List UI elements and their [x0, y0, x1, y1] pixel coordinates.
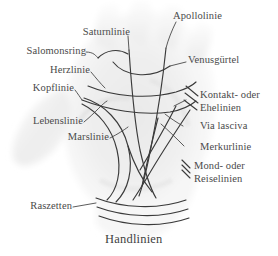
figure-caption: Handlinien [105, 232, 163, 247]
label-mond-reiselinien-line2: Reiselinien [194, 173, 245, 186]
label-kopflinie: Kopflinie [0, 82, 74, 94]
label-salomonsring: Salomonsring [0, 45, 86, 57]
palmistry-figure: Apollolinie Saturnlinie Venusgürtel Salo… [0, 0, 278, 256]
label-kontakt-ehelinien-line2: Ehelinien [200, 102, 260, 115]
label-marslinie: Marslinie [0, 131, 109, 143]
leader-raszetten [73, 203, 96, 207]
label-mond-reiselinien: Mond- oder Reiselinien [194, 160, 245, 185]
label-kontakt-ehelinien: Kontakt- oder Ehelinien [200, 89, 260, 114]
label-merkurlinie: Merkurlinie [200, 141, 251, 153]
label-apollolinie: Apollolinie [173, 10, 222, 22]
label-herzlinie: Herzlinie [0, 64, 90, 76]
label-mond-reiselinien-line1: Mond- oder [194, 160, 245, 173]
label-via-lasciva: Via lasciva [200, 120, 247, 132]
label-kontakt-ehelinien-line1: Kontakt- oder [200, 89, 260, 102]
label-raszetten: Raszetten [0, 200, 72, 212]
label-saturnlinie: Saturnlinie [60, 26, 130, 38]
label-lebenslinie: Lebenslinie [0, 115, 83, 127]
label-venusguertel: Venusgürtel [188, 54, 239, 66]
